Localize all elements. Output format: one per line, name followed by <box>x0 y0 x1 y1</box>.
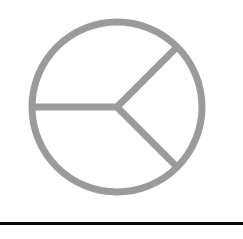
horizontal-rule <box>0 222 243 225</box>
pie-diagram-svg <box>0 0 243 215</box>
figure-caption <box>0 227 243 239</box>
figure-area <box>0 0 243 215</box>
spoke-lower-right-line <box>117 107 177 167</box>
figure-page <box>0 0 243 239</box>
spoke-upper-right-line <box>117 47 177 107</box>
